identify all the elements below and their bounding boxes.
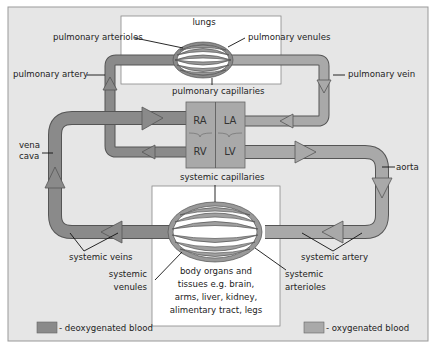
heart: RA LA RV LV bbox=[186, 102, 245, 168]
body-label-4: alimentary tract, legs bbox=[170, 305, 263, 315]
systemic-venules-label-1: systemic bbox=[109, 269, 147, 279]
chamber-ra: RA bbox=[193, 115, 207, 126]
legend-swatch-oxygenated bbox=[304, 322, 324, 333]
vena-cava-label-1: vena bbox=[19, 140, 40, 150]
chamber-lv: LV bbox=[224, 146, 235, 157]
pulmonary-capillaries-label: pulmonary capillaries bbox=[172, 86, 265, 96]
legend-oxygenated-label: - oxygenated blood bbox=[326, 323, 409, 333]
lungs-label: lungs bbox=[192, 17, 216, 27]
pulmonary-artery-label: pulmonary artery bbox=[13, 69, 88, 79]
pulmonary-arterioles-label: pulmonary arterioles bbox=[53, 32, 143, 42]
chamber-la: LA bbox=[224, 115, 237, 126]
systemic-artery-label: systemic artery bbox=[301, 252, 368, 262]
systemic-arterioles-label-2: arterioles bbox=[285, 282, 326, 292]
aorta-label: aorta bbox=[396, 162, 419, 172]
body-label-1: body organs and bbox=[180, 266, 252, 276]
pulmonary-venules-label: pulmonary venules bbox=[248, 32, 331, 42]
legend-swatch-deoxygenated bbox=[37, 322, 57, 333]
systemic-capillary-bed bbox=[168, 202, 262, 262]
vena-cava-label-2: cava bbox=[19, 151, 39, 161]
systemic-arterioles-label-1: systemic bbox=[285, 269, 323, 279]
systemic-veins-label: systemic veins bbox=[69, 252, 133, 262]
body-label-3: arms, liver, kidney, bbox=[175, 292, 257, 302]
systemic-venules-label-2: venules bbox=[114, 282, 148, 292]
legend-deoxygenated-label: - deoxygenated blood bbox=[59, 323, 153, 333]
pulmonary-vein-label: pulmonary vein bbox=[348, 69, 415, 79]
body-label-2: tissues e.g. brain, bbox=[178, 279, 254, 289]
chamber-rv: RV bbox=[193, 146, 206, 157]
circulation-diagram: RA LA RV LV lungs pulmonary arterioles p… bbox=[0, 0, 435, 347]
systemic-capillaries-label: systemic capillaries bbox=[180, 172, 265, 182]
